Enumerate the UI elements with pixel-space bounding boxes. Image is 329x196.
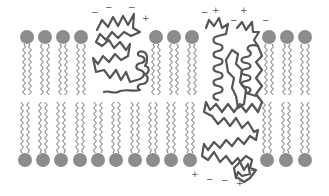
lipid-tail	[45, 102, 48, 153]
lipid-tail	[149, 102, 152, 153]
lipid-tail	[188, 44, 191, 95]
negative-charge-label: −	[230, 16, 238, 25]
lipid-tail	[131, 102, 134, 153]
positive-charge-label: +	[191, 170, 199, 179]
lipid-head	[164, 153, 178, 167]
lipid-tail	[100, 102, 103, 153]
negative-charge-label: −	[250, 166, 258, 175]
lipid-tail	[155, 102, 158, 153]
lipid-head	[280, 30, 294, 44]
lipid-head	[262, 30, 276, 44]
lipid-tail	[194, 44, 197, 95]
protein-right-coil-1	[206, 18, 228, 100]
lipid-tail	[65, 44, 68, 95]
lipid-tail	[192, 102, 195, 153]
lipid-tail	[167, 102, 170, 153]
lipid-tail	[57, 102, 60, 153]
lipid-head	[149, 30, 163, 44]
lipid-head	[185, 30, 199, 44]
negative-charge-label: −	[105, 3, 113, 12]
lipid-head	[91, 153, 105, 167]
protein-left-zigzag	[93, 14, 140, 82]
lipid-head	[298, 153, 312, 167]
lipid-tail	[289, 44, 292, 95]
lipid-tail	[301, 102, 304, 153]
lipid-tail	[29, 44, 32, 95]
lipid-tail	[301, 44, 304, 95]
lipid-tail	[158, 44, 161, 95]
lipid-head	[183, 153, 197, 167]
lipid-tail	[59, 44, 62, 95]
lipid-tail	[39, 102, 42, 153]
lipid-head	[298, 30, 312, 44]
positive-charge-label: +	[142, 14, 150, 23]
lipid-head	[128, 153, 142, 167]
lipid-tail	[186, 102, 189, 153]
lipid-tail	[47, 44, 50, 95]
lipid-tail	[263, 102, 266, 153]
lipid-tail	[27, 102, 30, 153]
positive-charge-label: +	[212, 6, 220, 15]
lipid-tail	[173, 102, 176, 153]
lipid-head	[18, 153, 32, 167]
positive-charge-label: +	[240, 6, 248, 15]
lipid-tail	[112, 102, 115, 153]
lipid-tail	[176, 44, 179, 95]
protein-right-zigzag-edge	[256, 46, 262, 112]
lipid-head	[73, 153, 87, 167]
lipid-head	[146, 153, 160, 167]
negative-charge-label: −	[221, 176, 229, 185]
lipid-heads	[18, 30, 312, 167]
lipid-tail	[83, 44, 86, 95]
lipid-tail	[94, 102, 97, 153]
lipid-tail	[137, 102, 140, 153]
negative-charge-label: −	[206, 175, 214, 184]
lipid-head	[167, 30, 181, 44]
lipid-head	[260, 153, 274, 167]
lipid-tails	[21, 44, 310, 153]
lipid-head	[279, 153, 293, 167]
lipid-head	[74, 30, 88, 44]
lipid-tail	[152, 44, 155, 95]
lipid-tail	[307, 102, 310, 153]
protein-right-coil-2	[237, 22, 259, 96]
lipid-tail	[21, 102, 24, 153]
positive-charge-label: +	[236, 179, 244, 188]
lipid-tail	[269, 102, 272, 153]
lipid-tail	[271, 44, 274, 95]
lipid-tail	[288, 102, 291, 153]
lipid-head	[109, 153, 123, 167]
lipid-head	[36, 153, 50, 167]
lipid-tail	[82, 102, 85, 153]
lipid-tail	[282, 102, 285, 153]
lipid-tail	[77, 44, 80, 95]
lipid-tail	[170, 44, 173, 95]
lipid-tail	[23, 44, 26, 95]
lipid-tail	[283, 44, 286, 95]
negative-charge-label: −	[128, 3, 136, 12]
bilayer-canvas	[0, 0, 329, 196]
negative-charge-label: −	[262, 16, 270, 25]
lipid-tail	[76, 102, 79, 153]
lipid-tail	[265, 44, 268, 95]
lipid-head	[38, 30, 52, 44]
negative-charge-label: −	[91, 8, 99, 17]
negative-charge-label: −	[201, 8, 209, 17]
lipid-tail	[41, 44, 44, 95]
lipid-head	[56, 30, 70, 44]
membrane-diagram: −−−+−+−+−+−−+−	[0, 0, 329, 196]
lipid-tail	[63, 102, 66, 153]
lipid-head	[20, 30, 34, 44]
lipid-tail	[118, 102, 121, 153]
lipid-tail	[307, 44, 310, 95]
lipid-head	[54, 153, 68, 167]
